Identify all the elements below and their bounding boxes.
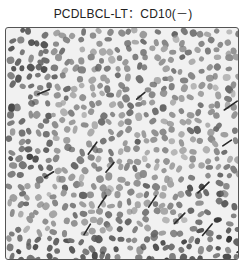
cell-field	[6, 28, 238, 259]
figure-title: PCDLBCL-LT：CD10(－)	[0, 4, 246, 21]
micrograph-image	[5, 27, 239, 260]
